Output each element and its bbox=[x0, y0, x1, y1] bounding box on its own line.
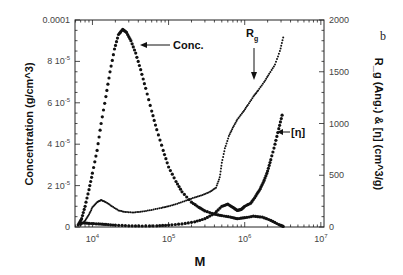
data-point bbox=[222, 156, 224, 158]
data-point bbox=[134, 224, 137, 227]
data-point bbox=[175, 203, 177, 205]
data-point bbox=[160, 144, 163, 147]
data-point bbox=[267, 167, 270, 170]
data-point bbox=[164, 157, 167, 160]
data-point bbox=[182, 201, 184, 203]
data-point bbox=[258, 88, 260, 90]
data-point bbox=[187, 199, 189, 201]
data-point bbox=[276, 58, 278, 60]
data-point bbox=[273, 65, 275, 67]
data-point bbox=[261, 84, 263, 86]
data-point bbox=[270, 154, 273, 157]
left-axis-title: Concentration (g/cm^3) bbox=[23, 62, 35, 185]
data-point bbox=[80, 217, 83, 220]
data-point bbox=[133, 48, 136, 51]
data-point bbox=[86, 192, 89, 195]
data-point bbox=[158, 207, 160, 209]
data-point bbox=[164, 224, 167, 227]
data-point bbox=[183, 200, 185, 202]
data-point bbox=[148, 224, 151, 227]
data-point bbox=[143, 82, 146, 85]
data-point bbox=[271, 69, 273, 71]
data-point bbox=[267, 75, 269, 77]
data-point bbox=[153, 209, 155, 211]
eta-label: [η] bbox=[291, 126, 305, 138]
data-point bbox=[178, 202, 180, 204]
data-point bbox=[131, 211, 133, 213]
data-point bbox=[272, 147, 275, 150]
data-point bbox=[219, 176, 221, 178]
data-point bbox=[92, 166, 95, 169]
data-point bbox=[106, 83, 109, 86]
data-point bbox=[271, 150, 274, 153]
data-point bbox=[262, 83, 264, 85]
data-point bbox=[136, 211, 138, 213]
data-point bbox=[137, 60, 140, 63]
data-point bbox=[275, 135, 278, 138]
data-point bbox=[153, 119, 156, 122]
data-point bbox=[105, 89, 108, 92]
data-point bbox=[215, 187, 217, 189]
rg-arrow-head bbox=[251, 72, 257, 80]
data-point bbox=[81, 214, 84, 217]
data-point bbox=[83, 208, 86, 211]
data-point bbox=[100, 122, 103, 125]
data-point bbox=[91, 172, 94, 175]
data-point bbox=[145, 210, 147, 212]
data-point bbox=[230, 130, 232, 132]
data-point bbox=[192, 197, 194, 199]
data-point bbox=[102, 108, 105, 111]
data-point bbox=[90, 176, 93, 179]
data-point bbox=[180, 202, 182, 204]
data-point bbox=[128, 211, 130, 213]
data-point bbox=[223, 150, 225, 152]
data-point bbox=[151, 209, 153, 211]
right-axis-title: R_g (Ang.) & [η] (cm^3/g) bbox=[373, 58, 385, 191]
data-point bbox=[96, 149, 99, 152]
data-point bbox=[176, 203, 178, 205]
data-point bbox=[94, 155, 97, 158]
data-point bbox=[110, 65, 113, 68]
data-point bbox=[126, 211, 128, 213]
data-point bbox=[226, 142, 228, 144]
data-point bbox=[190, 198, 192, 200]
data-point bbox=[137, 224, 140, 227]
data-point bbox=[180, 222, 183, 225]
data-point bbox=[282, 37, 284, 39]
data-point bbox=[217, 183, 219, 185]
data-point bbox=[169, 169, 172, 172]
data-point bbox=[140, 211, 142, 213]
data-point bbox=[220, 171, 222, 173]
data-point bbox=[114, 224, 117, 227]
data-point bbox=[233, 125, 235, 127]
data-point bbox=[166, 161, 169, 164]
data-point bbox=[281, 114, 284, 117]
data-point bbox=[144, 224, 147, 227]
data-point bbox=[113, 47, 116, 50]
conc-arrow-head bbox=[140, 42, 147, 48]
data-point bbox=[147, 210, 149, 212]
data-point bbox=[138, 64, 141, 67]
rg-label: Rg bbox=[246, 27, 258, 43]
data-point bbox=[183, 193, 186, 196]
x-tick-label: 107 bbox=[314, 233, 328, 244]
data-point bbox=[167, 165, 170, 168]
data-point bbox=[155, 128, 158, 131]
data-point bbox=[269, 71, 271, 73]
data-point bbox=[114, 44, 117, 47]
data-point bbox=[135, 211, 137, 213]
data-point bbox=[99, 129, 102, 132]
data-point bbox=[141, 211, 143, 213]
data-point bbox=[101, 115, 104, 118]
right-y-tick-label: 2000 bbox=[329, 15, 349, 25]
data-point bbox=[168, 205, 170, 207]
data-point bbox=[257, 89, 259, 91]
left-axis-ticks: 02 10-54 10-56 10-58 10-50.0001 bbox=[42, 15, 80, 232]
left-y-tick-label: 0.0001 bbox=[42, 15, 70, 25]
data-point bbox=[227, 137, 229, 139]
data-point bbox=[134, 52, 137, 55]
data-point bbox=[157, 133, 160, 136]
data-point bbox=[278, 53, 280, 55]
data-point bbox=[279, 120, 282, 123]
data-point bbox=[146, 92, 149, 95]
